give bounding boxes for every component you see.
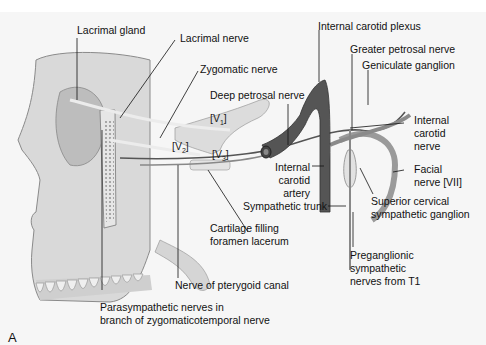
- label-internal-carotid-plexus: Internal carotid plexus: [318, 20, 421, 33]
- label-nerve-pterygoid-canal: Nerve of pterygoid canal: [175, 279, 289, 292]
- label-cartilage-foramen-lacerum: Cartilage filling foramen lacerum: [210, 222, 289, 248]
- label-lacrimal-nerve: Lacrimal nerve: [180, 32, 249, 45]
- label-deep-petrosal-nerve: Deep petrosal nerve: [210, 89, 305, 102]
- trigeminal-v1-label: [V1]: [210, 112, 227, 126]
- label-internal-carotid-nerve: Internal carotid nerve: [414, 114, 449, 153]
- label-superior-cervical-ganglion: Superior cervical sympathetic ganglion: [371, 195, 470, 221]
- label-zygomatic-nerve: Zygomatic nerve: [200, 63, 278, 76]
- label-geniculate-ganglion: Geniculate ganglion: [362, 59, 455, 72]
- label-facial-nerve: Facial nerve [VII]: [414, 163, 462, 189]
- label-parasympathetic-nerves: Parasympathetic nerves in branch of zygo…: [100, 301, 270, 327]
- trigeminal-v3-label: [V3]: [212, 148, 229, 162]
- label-lacrimal-gland: Lacrimal gland: [77, 24, 145, 37]
- label-sympathetic-trunk: Sympathetic trunk: [243, 200, 327, 213]
- label-preganglionic-sympathetic: Preganglionic sympathetic nerves from T1: [350, 249, 420, 288]
- trigeminal-v2-label: [V2]: [172, 140, 189, 154]
- label-internal-carotid-artery: Internal carotid artery: [272, 161, 310, 200]
- panel-label: A: [8, 330, 17, 345]
- label-greater-petrosal-nerve: Greater petrosal nerve: [350, 43, 455, 56]
